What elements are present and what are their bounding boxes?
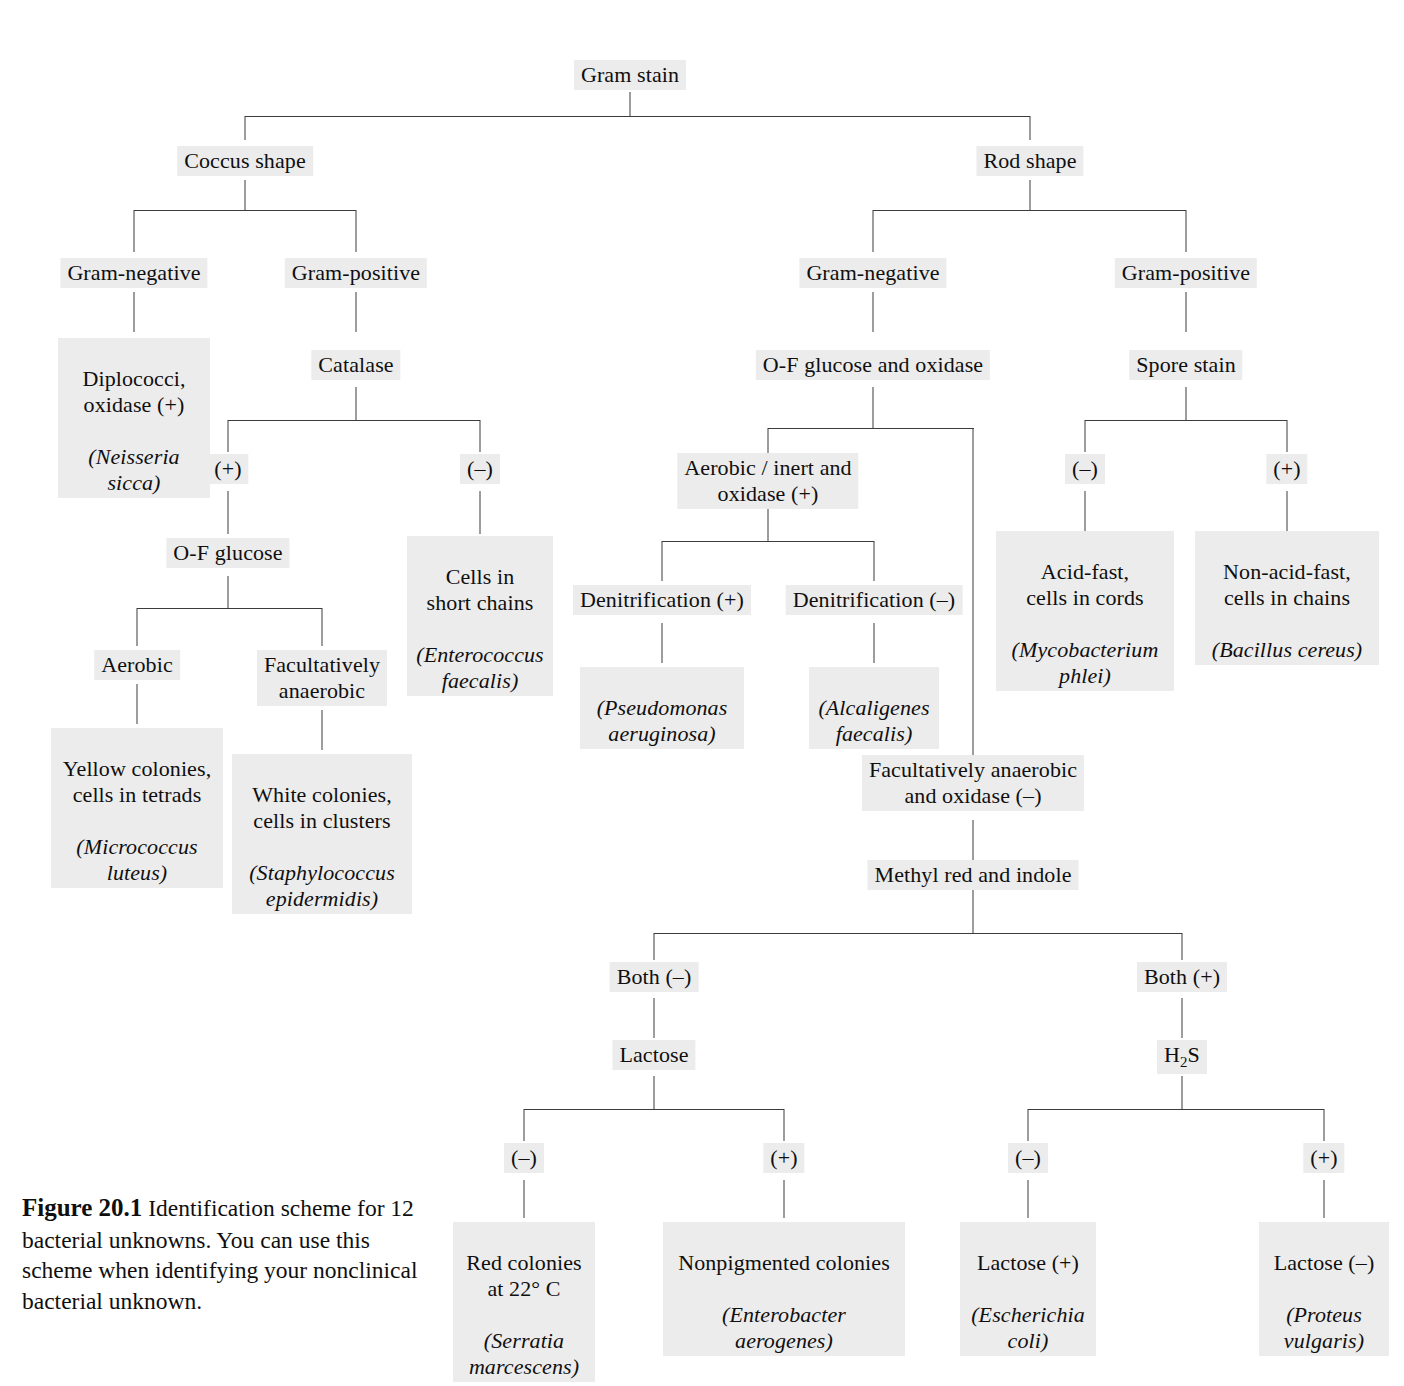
connector-methyl-red-down <box>973 890 974 933</box>
connector-spore-plus-down <box>1287 491 1288 531</box>
node-aerobic-inert-oxidase-plus[interactable]: Aerobic / inert and oxidase (+) <box>677 453 858 509</box>
terminal-bacillus-cereus[interactable]: Non-acid-fast, cells in chains (Bacillus… <box>1195 531 1379 665</box>
node-rod-gram-negative[interactable]: Gram-negative <box>799 258 946 288</box>
node-gram-stain[interactable]: Gram stain <box>574 60 686 90</box>
connector-coccus-gneg-down <box>134 292 135 332</box>
node-h2s[interactable]: H2S <box>1157 1040 1207 1074</box>
connector-coccus-gpos-down <box>356 292 357 332</box>
connector-catalase-span <box>228 420 480 421</box>
terminal-staphylococcus-species: (Staphylococcus epidermidis) <box>249 860 395 911</box>
connector-to-lactose-minus <box>524 1109 525 1141</box>
node-spore-plus[interactable]: (+) <box>1266 454 1307 484</box>
node-h2s-minus[interactable]: (–) <box>1008 1143 1048 1173</box>
terminal-mycobacterium-lines: Acid-fast, cells in cords <box>1026 559 1143 610</box>
connector-coccus-span <box>134 210 356 211</box>
figure-canvas: Gram stain Coccus shape Rod shape Gram-n… <box>0 0 1404 1386</box>
terminal-proteus-vulgaris[interactable]: Lactose (–) (Proteus vulgaris) <box>1259 1222 1389 1356</box>
connector-rod-gpos-down <box>1186 292 1187 332</box>
node-spore-stain[interactable]: Spore stain <box>1129 350 1242 380</box>
terminal-serratia-marcescens[interactable]: Red colonies at 22° C (Serratia marcesce… <box>453 1222 595 1382</box>
terminal-proteus-lines: Lactose (–) <box>1274 1250 1375 1275</box>
connector-to-aerobic-inert <box>768 428 769 453</box>
node-denitrification-plus[interactable]: Denitrification (+) <box>573 585 751 615</box>
connector-lactose-down <box>654 1076 655 1109</box>
connector-both-minus-down <box>654 998 655 1038</box>
terminal-serratia-lines: Red colonies at 22° C <box>466 1250 581 1301</box>
node-facultatively-anaerobic[interactable]: Facultatively anaerobic <box>257 650 387 706</box>
terminal-alcaligenes-faecalis[interactable]: (Alcaligenes faecalis) <box>809 667 939 749</box>
connector-to-fac-oxidase-minus <box>973 428 974 755</box>
connector-catalase-minus-down <box>480 491 481 534</box>
node-h2s-plus[interactable]: (+) <box>1303 1143 1344 1173</box>
connector-of-glucose-down <box>228 576 229 608</box>
terminal-proteus-species: (Proteus vulgaris) <box>1284 1302 1364 1353</box>
node-lactose[interactable]: Lactose <box>612 1040 695 1070</box>
connector-to-spore-minus <box>1085 420 1086 452</box>
connector-to-both-minus <box>654 933 655 960</box>
node-fac-anaerobic-oxidase-minus[interactable]: Facultatively anaerobic and oxidase (–) <box>862 755 1084 811</box>
node-both-plus[interactable]: Both (+) <box>1137 962 1227 992</box>
connector-to-catalase-minus <box>480 420 481 452</box>
connector-h2s-minus-down <box>1028 1180 1029 1218</box>
terminal-staphylococcus-epidermidis[interactable]: White colonies, cells in clusters (Staph… <box>232 754 412 914</box>
connector-to-aerobic <box>137 608 138 646</box>
connector-h2s-span <box>1028 1109 1324 1110</box>
connector-spore-span <box>1085 420 1287 421</box>
terminal-staphylococcus-lines: White colonies, cells in clusters <box>252 782 392 833</box>
terminal-pseudomonas-aeruginosa[interactable]: (Pseudomonas aeruginosa) <box>580 667 744 749</box>
node-catalase-plus[interactable]: (+) <box>207 454 248 484</box>
terminal-serratia-species: (Serratia marcescens) <box>469 1328 579 1379</box>
connector-lactose-minus-down <box>524 1180 525 1218</box>
figure-caption-label: Figure 20.1 <box>22 1194 142 1221</box>
terminal-enterobacter-lines: Nonpigmented colonies <box>678 1250 890 1275</box>
node-catalase[interactable]: Catalase <box>311 350 400 380</box>
node-catalase-minus[interactable]: (–) <box>460 454 500 484</box>
node-lactose-minus[interactable]: (–) <box>504 1143 544 1173</box>
node-of-glucose[interactable]: O-F glucose <box>166 538 289 568</box>
terminal-micrococcus-luteus[interactable]: Yellow colonies, cells in tetrads (Micro… <box>51 728 223 888</box>
terminal-neisseria-lines: Diplococci, oxidase (+) <box>82 366 185 417</box>
node-aerobic[interactable]: Aerobic <box>94 650 180 680</box>
node-rod-shape[interactable]: Rod shape <box>976 146 1083 176</box>
connector-rod-down <box>1030 180 1031 210</box>
connector-aerobic-down <box>137 684 138 724</box>
terminal-alcaligenes-species: (Alcaligenes faecalis) <box>818 695 929 746</box>
node-methyl-red-and-indole[interactable]: Methyl red and indole <box>868 860 1079 890</box>
terminal-enterococcus-faecalis[interactable]: Cells in short chains (Enterococcus faec… <box>407 536 553 696</box>
node-coccus-gram-positive[interactable]: Gram-positive <box>285 258 427 288</box>
connector-of-oxidase-down <box>873 387 874 428</box>
connector-rod-gneg-down <box>873 292 874 332</box>
node-both-minus[interactable]: Both (–) <box>610 962 699 992</box>
node-rod-gram-positive[interactable]: Gram-positive <box>1115 258 1257 288</box>
connector-fac-anaerobic-down <box>322 710 323 750</box>
terminal-enterobacter-aerogenes[interactable]: Nonpigmented colonies (Enterobacter aero… <box>663 1222 905 1356</box>
connector-to-h2s-minus <box>1028 1109 1029 1141</box>
connector-to-lactose-plus <box>784 1109 785 1141</box>
connector-to-both-plus <box>1182 933 1183 960</box>
connector-denit-plus-down <box>662 623 663 663</box>
connector-gram-stain-span <box>245 116 1030 117</box>
terminal-bacillus-lines: Non-acid-fast, cells in chains <box>1223 559 1351 610</box>
terminal-bacillus-species: (Bacillus cereus) <box>1212 637 1363 662</box>
connector-both-plus-down <box>1182 998 1183 1038</box>
connector-to-fac-anaerobic <box>322 608 323 646</box>
connector-to-rod <box>1030 116 1031 140</box>
node-denitrification-minus[interactable]: Denitrification (–) <box>786 585 963 615</box>
connector-to-catalase-plus <box>228 420 229 452</box>
connector-aerobic-inert-span <box>662 541 874 542</box>
terminal-mycobacterium-phlei[interactable]: Acid-fast, cells in cords (Mycobacterium… <box>996 531 1174 691</box>
terminal-escherichia-coli[interactable]: Lactose (+) (Escherichia coli) <box>960 1222 1096 1356</box>
connector-to-denit-plus <box>662 541 663 581</box>
node-coccus-shape[interactable]: Coccus shape <box>177 146 313 176</box>
connector-coccus-down <box>245 180 246 210</box>
connector-to-coccus-gpos <box>356 210 357 252</box>
node-lactose-plus[interactable]: (+) <box>763 1143 804 1173</box>
connector-gram-stain-down <box>630 92 631 116</box>
node-spore-minus[interactable]: (–) <box>1065 454 1105 484</box>
figure-caption: Figure 20.1 Identification scheme for 12… <box>22 1192 422 1316</box>
node-coccus-gram-negative[interactable]: Gram-negative <box>60 258 207 288</box>
terminal-neisseria-sicca[interactable]: Diplococci, oxidase (+) (Neisseria sicca… <box>58 338 210 498</box>
terminal-enterobacter-species: (Enterobacter aerogenes) <box>722 1302 846 1353</box>
terminal-neisseria-species: (Neisseria sicca) <box>88 444 179 495</box>
node-of-glucose-and-oxidase[interactable]: O-F glucose and oxidase <box>756 350 990 380</box>
